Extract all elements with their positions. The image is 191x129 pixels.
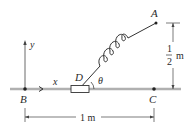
- vertical-dimension-numerator: 1: [167, 43, 172, 54]
- x-axis-label: x: [52, 76, 58, 87]
- horizontal-dimension-label: 1 m: [80, 112, 96, 123]
- y-axis: [23, 40, 26, 89]
- point-b-label: B: [20, 93, 27, 105]
- vertical-dimension-unit: m: [176, 50, 184, 61]
- point-c: [152, 87, 156, 91]
- spring: [80, 23, 156, 88]
- angle-label: θ: [98, 75, 103, 86]
- spring-collar-diagram: y x B C A D θ 1 2 m 1 m: [0, 0, 191, 129]
- collar-d-label: D: [74, 71, 83, 83]
- collar-d: [71, 86, 89, 93]
- point-c-label: C: [149, 93, 157, 105]
- vertical-dimension-denominator: 2: [167, 56, 172, 67]
- y-axis-label: y: [29, 39, 35, 50]
- point-b: [23, 87, 27, 91]
- point-a: [155, 22, 158, 25]
- point-a-label: A: [150, 7, 158, 19]
